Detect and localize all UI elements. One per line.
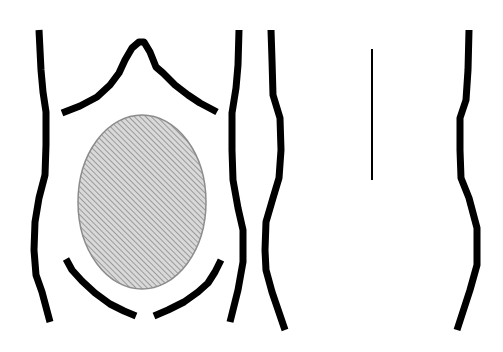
background — [0, 0, 503, 352]
hatched-abdominal-region — [78, 115, 206, 289]
torso-diagram — [0, 0, 503, 352]
